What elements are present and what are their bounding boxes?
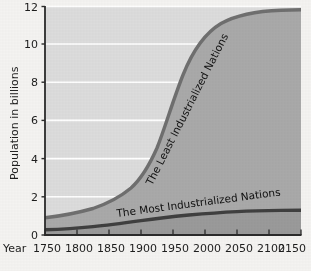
x-tick-label-1850: 1850 [97,242,125,255]
x-tick-labels: 1750 1800 1850 1900 1950 2000 2050 2100 … [33,242,306,255]
x-axis-title: Year [2,242,27,255]
y-tick-label-8: 8 [31,76,38,89]
y-axis-title: Population in billions [8,66,21,180]
x-tick-label-2050: 2050 [225,242,253,255]
y-tick-label-10: 10 [24,38,38,51]
y-tick-label-0: 0 [31,229,38,242]
y-tick-label-12: 12 [24,1,38,14]
x-tick-label-1750: 1750 [33,242,61,255]
x-tick-label-1950: 1950 [161,242,189,255]
x-tick-label-1900: 1900 [129,242,157,255]
y-tick-label-6: 6 [31,114,38,127]
y-tick-label-2: 2 [31,191,38,204]
x-tick-label-1800: 1800 [65,242,93,255]
x-tick-label-2000: 2000 [193,242,221,255]
x-tick-label-2150: 2150 [278,242,306,255]
y-tick-label-4: 4 [31,153,38,166]
population-growth-chart: The Least Industrialized Nations The Mos… [0,0,311,271]
